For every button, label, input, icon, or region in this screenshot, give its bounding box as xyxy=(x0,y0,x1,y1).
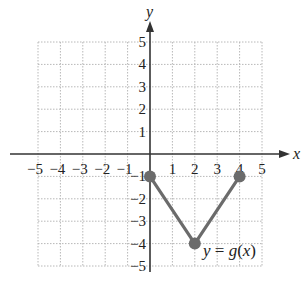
data-point xyxy=(144,170,156,182)
y-tick-label: 2 xyxy=(139,101,147,117)
x-tick-label: 1 xyxy=(169,161,177,177)
x-tick-label: −4 xyxy=(49,161,65,177)
y-axis-label: y xyxy=(144,3,154,21)
y-tick-label: 5 xyxy=(139,34,147,50)
x-tick-label: −5 xyxy=(27,161,43,177)
y-tick-label: 1 xyxy=(139,124,147,140)
y-axis-arrow-icon xyxy=(146,21,154,32)
y-tick-label: −1 xyxy=(130,168,146,184)
y-tick-label: −5 xyxy=(130,258,146,274)
x-tick-label: 3 xyxy=(213,161,221,177)
x-tick-label: 5 xyxy=(258,161,266,177)
y-tick-label: −2 xyxy=(130,191,146,207)
data-point xyxy=(189,238,201,250)
x-tick-label: 2 xyxy=(191,161,199,177)
y-tick-label: −3 xyxy=(130,213,146,229)
x-axis-label: x xyxy=(292,145,300,162)
y-tick-label: 4 xyxy=(139,56,147,72)
x-tick-label: −2 xyxy=(94,161,110,177)
curve-label: y = g(x) xyxy=(201,241,256,260)
data-point xyxy=(234,170,246,182)
y-tick-label: 3 xyxy=(139,79,147,95)
y-tick-label: −4 xyxy=(130,236,146,252)
x-tick-label: −3 xyxy=(72,161,88,177)
axes: x y xyxy=(10,3,300,272)
x-axis-arrow-icon xyxy=(279,150,290,158)
function-graph: x y −5−4−3−2−11234554321−1−2−3−4−5 y = g… xyxy=(0,0,305,284)
